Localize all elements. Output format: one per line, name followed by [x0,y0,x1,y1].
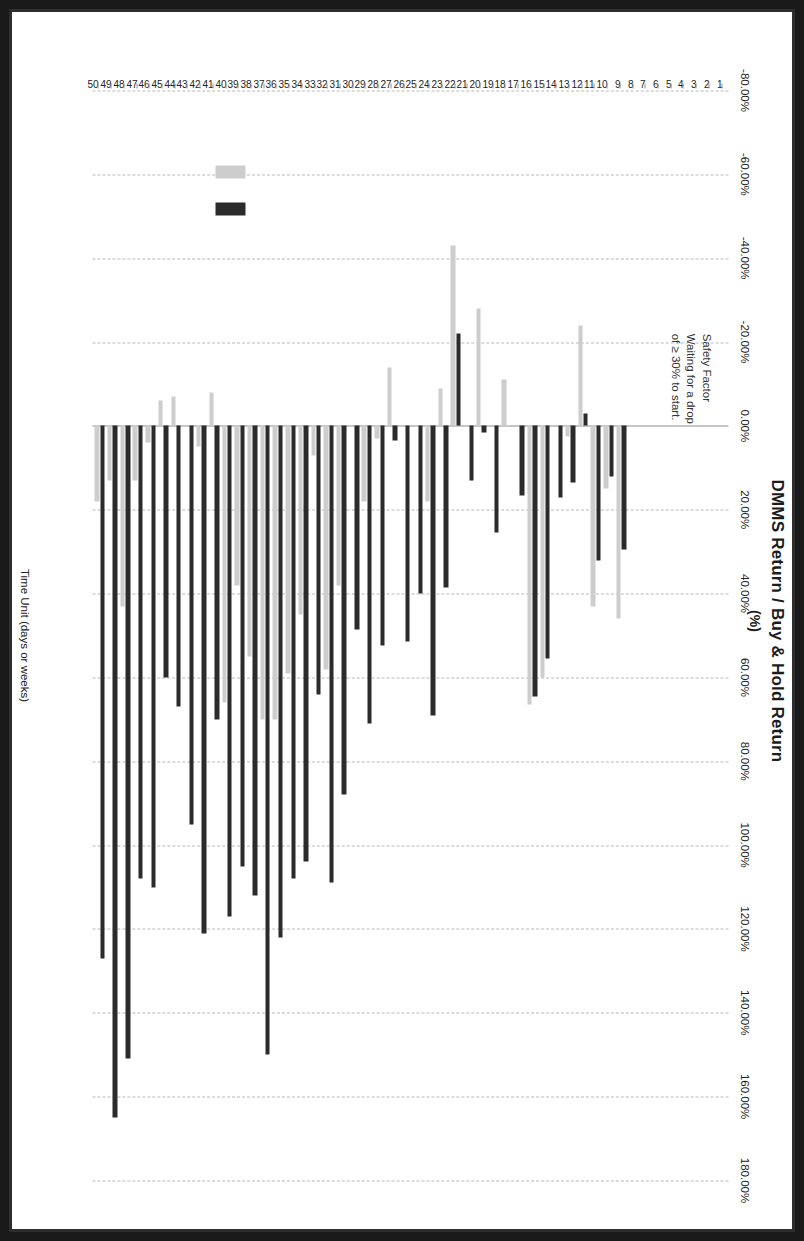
bar-row [117,90,130,1180]
category-tick-mark [148,83,149,88]
bar-row [563,90,576,1180]
bar-buy-hold-return [171,396,175,425]
category-tick-mark [288,83,289,88]
bar-row [499,90,512,1180]
bar-dmms-return [354,425,358,628]
value-tick-label: 100.00% [738,822,750,867]
category-tick-label: 15 [532,79,543,90]
category-tick-label: 36 [265,79,276,90]
bar-dmms-return [558,425,562,496]
category-tick-mark [136,83,137,88]
category-tick-mark [403,83,404,88]
category-tick-mark [657,83,658,88]
bar-row [639,90,652,1180]
bar-row [372,90,385,1180]
category-tick-mark [593,83,594,88]
value-tick-label: 140.00% [738,990,750,1035]
bar-row [130,90,143,1180]
legend-swatch-dmms [215,202,245,215]
category-tick-mark [619,83,620,88]
bar-dmms-return [596,425,600,559]
bar-row [626,90,639,1180]
bar-buy-hold-return [323,425,327,668]
bar-row [588,90,601,1180]
category-tick-label: 29 [354,79,365,90]
bar-row [448,90,461,1180]
value-tick-label: 20.00% [738,490,750,529]
bar-dmms-return [240,425,244,865]
bar-dmms-return [456,333,460,425]
plot-area [92,90,728,1180]
category-tick-mark [670,83,671,88]
category-tick-label: 27 [380,79,391,90]
bar-buy-hold-return [527,425,531,704]
bar-dmms-return [545,425,549,658]
bar-dmms-return [621,425,625,549]
bar-buy-hold-return [234,425,238,584]
category-tick-mark [454,83,455,88]
category-tick-mark [161,83,162,88]
bar-row [194,90,207,1180]
bar-buy-hold-return [336,425,340,584]
bar-buy-hold-return [438,388,442,426]
category-tick-label: 21 [456,79,467,90]
bar-row [410,90,423,1180]
bar-dmms-return [494,425,498,532]
bar-dmms-return [125,425,129,1058]
category-tick-mark [721,83,722,88]
bar-dmms-return [252,425,256,895]
value-tick-label: 80.00% [738,741,750,780]
bar-buy-hold-return [476,308,480,425]
bar-buy-hold-return [616,425,620,618]
bar-row [296,90,309,1180]
value-tick-label: -60.00% [738,152,750,195]
category-tick-label: 50 [87,79,98,90]
category-tick-mark [708,83,709,88]
bar-dmms-return [278,425,282,936]
bar-row [397,90,410,1180]
bar-row [703,90,716,1180]
value-tick-label: 0.00% [738,409,750,442]
bar-buy-hold-return [540,425,544,677]
category-axis-title: Time Unit (days or weeks) [18,90,30,1180]
bar-dmms-return [570,425,574,482]
category-tick-label: 37 [253,79,264,90]
bar-row [690,90,703,1180]
bar-dmms-return [443,425,447,586]
bar-row [219,90,232,1180]
category-tick-mark [441,83,442,88]
bar-buy-hold-return [451,245,455,425]
bar-row [524,90,537,1180]
page-content: DMMS Return / Buy & Hold Return (%) -80.… [14,14,790,1227]
bar-buy-hold-return [133,425,137,480]
bar-buy-hold-return [222,425,226,702]
bar-dmms-return [163,425,167,677]
category-tick-label: 25 [405,79,416,90]
category-tick-label: 14 [545,79,556,90]
bar-dmms-return [380,425,384,645]
bar-rows [92,90,728,1180]
bar-row [206,90,219,1180]
category-tick-label: 17 [507,79,518,90]
category-axis-tick-labels: 1234567891011121314151617181920212223242… [92,14,728,88]
bar-buy-hold-return [260,425,264,718]
bar-dmms-return [367,425,371,723]
category-tick-label: 12 [571,79,582,90]
category-tick-label: 31 [329,79,340,90]
value-axis-tick-labels: -80.00%-60.00%-40.00%-20.00%0.00%20.00%4… [730,90,750,1180]
bar-buy-hold-return [425,425,429,500]
bar-row [474,90,487,1180]
category-tick-label: 13 [558,79,569,90]
category-tick-mark [110,83,111,88]
category-tick-label: 48 [113,79,124,90]
category-tick-mark [339,83,340,88]
category-tick-mark [225,83,226,88]
rotated-chart-canvas: DMMS Return / Buy & Hold Return (%) -80.… [14,14,790,1227]
category-tick-mark [530,83,531,88]
bar-buy-hold-return [565,425,569,435]
bar-dmms-return [176,425,180,706]
category-tick-label: 35 [278,79,289,90]
category-tick-label: 30 [342,79,353,90]
bar-dmms-return [405,425,409,641]
bar-row [435,90,448,1180]
